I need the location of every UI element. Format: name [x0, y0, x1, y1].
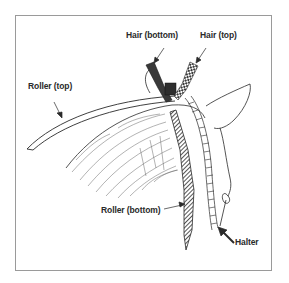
label-roller-top: Roller (top): [28, 81, 72, 91]
roller-top-leader: [54, 102, 60, 114]
roller-bottom-leader: [164, 205, 182, 209]
hair-bottom-leader: [156, 48, 164, 60]
label-hair-bottom: Hair (bottom): [126, 30, 178, 40]
hair-bottom-strand: [146, 62, 172, 102]
label-roller-bottom: Roller (bottom): [101, 205, 160, 215]
hair-bottom-arrowhead: [154, 57, 159, 63]
roller-top-arrowhead: [57, 112, 62, 118]
label-halter: Halter: [235, 237, 259, 247]
hair-top-arrowhead: [196, 57, 201, 63]
roller-top: [27, 96, 175, 150]
mane-hair-strokes: [72, 114, 178, 198]
hair-top-strand: [174, 62, 198, 100]
horse-head: [206, 84, 250, 226]
hair-top-leader: [198, 48, 206, 60]
label-hair-top: Hair (top): [200, 30, 237, 40]
hair-knot: [165, 83, 176, 95]
roller-bottom: [170, 110, 194, 250]
